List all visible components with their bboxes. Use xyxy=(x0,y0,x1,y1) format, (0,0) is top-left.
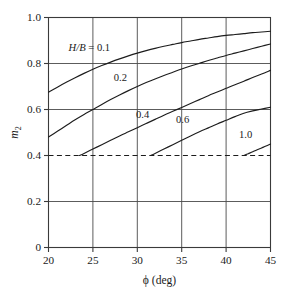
curve-label-0-4: 0.4 xyxy=(136,109,150,120)
curve-label-prefix: H/B xyxy=(68,42,87,53)
m2-vs-phi-chart: 20253035404500.20.40.60.81.0ϕ (deg)m2H/B… xyxy=(0,0,289,299)
xtick-label-40: 40 xyxy=(221,254,233,266)
curve-label-0-2: 0.2 xyxy=(114,72,127,83)
xtick-label-45: 45 xyxy=(265,254,277,266)
curve-label-1-0: 1.0 xyxy=(239,129,252,140)
x-axis-title: ϕ (deg) xyxy=(143,274,177,287)
xtick-label-25: 25 xyxy=(87,254,99,266)
curve-label-0-1: H/B = 0.1 xyxy=(68,42,111,53)
curve-hb-0-1 xyxy=(49,31,271,92)
curve-hb-0-6 xyxy=(151,107,271,155)
ytick-label-1: 1.0 xyxy=(27,11,41,23)
y-axis-title-subscript: 2 xyxy=(14,126,23,130)
ytick-label-0.6: 0.6 xyxy=(27,103,41,115)
ytick-label-0.4: 0.4 xyxy=(27,149,41,161)
curve-label-0-6: 0.6 xyxy=(176,114,189,125)
chart-figure: 20253035404500.20.40.60.81.0ϕ (deg)m2H/B… xyxy=(0,0,289,299)
xtick-label-20: 20 xyxy=(43,254,55,266)
curve-hb-1-0 xyxy=(244,144,271,156)
ytick-label-0.8: 0.8 xyxy=(27,57,41,69)
curve-hb-0-2 xyxy=(49,44,271,137)
y-axis-title: m2 xyxy=(8,126,23,138)
ytick-label-0: 0 xyxy=(35,241,41,253)
curve-label-value: = 0.1 xyxy=(86,42,111,53)
xtick-label-35: 35 xyxy=(176,254,188,266)
y-axis-title-main: m xyxy=(8,130,21,138)
ytick-label-0.2: 0.2 xyxy=(27,195,41,207)
xtick-label-30: 30 xyxy=(132,254,144,266)
